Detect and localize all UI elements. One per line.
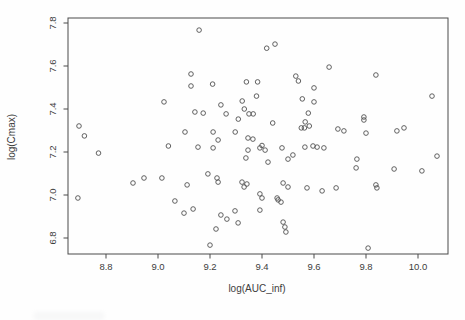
data-point: [193, 110, 198, 115]
data-point: [420, 169, 425, 174]
data-point: [291, 153, 296, 158]
data-point: [246, 148, 251, 153]
data-point: [242, 107, 247, 112]
data-point: [305, 186, 310, 191]
data-point: [260, 196, 265, 201]
data-point: [392, 167, 397, 172]
data-point: [225, 217, 230, 222]
data-point: [183, 130, 188, 135]
data-point: [77, 124, 82, 129]
data-point: [214, 227, 219, 232]
data-point: [219, 213, 224, 218]
data-point: [189, 72, 194, 77]
data-point: [263, 148, 268, 153]
y-axis-ticks: 6.87.07.27.47.67.8: [47, 16, 68, 244]
data-point: [196, 145, 201, 150]
y-tick-label: 6.8: [47, 231, 58, 244]
data-point: [244, 80, 249, 85]
data-point: [374, 73, 379, 78]
data-point: [355, 157, 360, 162]
data-point: [224, 112, 229, 117]
data-point: [322, 146, 327, 151]
data-point: [354, 166, 359, 171]
data-point: [211, 146, 216, 151]
data-point: [236, 221, 241, 226]
data-point: [160, 176, 165, 181]
x-tick-label: 9.0: [151, 261, 164, 272]
data-point: [395, 129, 400, 134]
data-point: [342, 129, 347, 134]
data-point: [162, 100, 167, 105]
data-point: [327, 65, 332, 70]
data-point: [254, 94, 259, 99]
data-point: [307, 124, 312, 129]
data-point: [296, 79, 301, 84]
data-point: [320, 189, 325, 194]
data-point: [233, 130, 238, 135]
data-point: [362, 118, 367, 123]
data-point: [273, 42, 278, 47]
data-point: [286, 157, 291, 162]
data-point: [142, 176, 147, 181]
data-point: [173, 199, 178, 204]
data-point: [284, 230, 289, 235]
data-point: [246, 136, 251, 141]
data-point: [251, 137, 256, 142]
data-point: [303, 145, 308, 150]
data-point: [236, 117, 241, 122]
data-point: [286, 185, 291, 190]
data-point: [82, 134, 87, 139]
data-point: [191, 207, 196, 212]
y-tick-label: 7.4: [47, 102, 58, 115]
data-point: [312, 100, 317, 105]
x-tick-label: 10.0: [409, 261, 428, 272]
data-point: [211, 130, 216, 135]
y-tick-label: 7.2: [47, 145, 58, 158]
data-point: [166, 144, 171, 149]
data-point: [366, 246, 371, 251]
scatter-plot-figure: 8.89.09.29.49.69.810.0 6.87.07.27.47.67.…: [0, 0, 465, 320]
data-point: [430, 94, 435, 99]
data-point: [364, 131, 369, 136]
x-axis-title: log(AUC_inf): [228, 283, 285, 294]
data-point: [96, 151, 101, 156]
data-point: [302, 126, 307, 131]
data-point: [435, 154, 440, 159]
data-point: [208, 243, 213, 248]
data-point: [294, 74, 299, 79]
data-point: [76, 196, 81, 201]
data-point: [240, 180, 245, 185]
y-tick-label: 7.8: [47, 16, 58, 29]
data-point: [266, 160, 271, 165]
data-point: [201, 111, 206, 116]
x-tick-label: 9.2: [203, 261, 216, 272]
x-tick-label: 9.6: [307, 261, 320, 272]
y-tick-label: 7.6: [47, 59, 58, 72]
cropped-caption-smudge: [34, 312, 104, 320]
data-point: [131, 181, 136, 186]
data-point: [197, 28, 202, 33]
plot-canvas: 8.89.09.29.49.69.810.0 6.87.07.27.47.67.…: [0, 0, 465, 320]
x-tick-label: 9.4: [255, 261, 268, 272]
data-point: [219, 103, 224, 108]
data-point: [402, 126, 407, 131]
x-tick-label: 9.8: [359, 261, 372, 272]
data-point: [189, 84, 194, 89]
x-tick-label: 8.8: [99, 261, 112, 272]
x-axis-ticks: 8.89.09.29.49.69.810.0: [99, 254, 427, 272]
data-point: [264, 46, 269, 51]
data-point: [244, 156, 249, 161]
data-point: [375, 186, 380, 191]
data-point: [206, 172, 211, 177]
scatter-points: [76, 28, 440, 251]
data-point: [303, 120, 308, 125]
data-point: [334, 186, 339, 191]
data-point: [255, 80, 260, 85]
data-point: [336, 127, 341, 132]
data-point: [300, 97, 305, 102]
data-point: [306, 111, 311, 116]
data-point: [374, 183, 379, 188]
data-point: [210, 82, 215, 87]
data-point: [312, 86, 317, 91]
data-point: [270, 121, 275, 126]
